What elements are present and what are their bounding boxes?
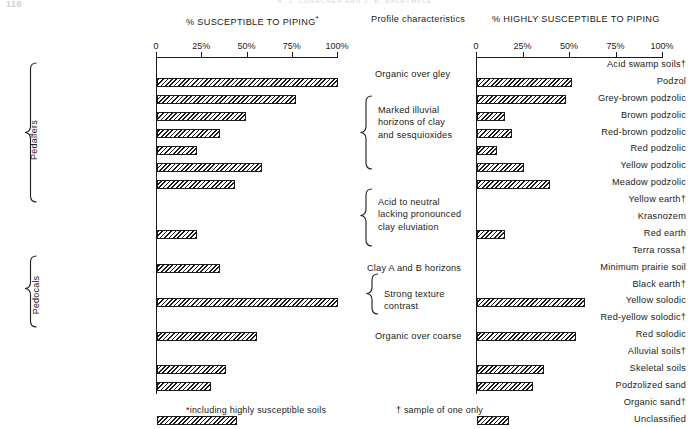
footnote-asterisk: *including highly susceptible soils (186, 405, 326, 415)
brace-acid-to-neutral (361, 189, 373, 246)
footnote-dagger: † sample of one only (396, 405, 483, 415)
brace-strong-texture (367, 274, 379, 314)
group-label-pedalfers: Pedalfers (29, 120, 39, 160)
brace-overlay (0, 0, 691, 429)
figure-canvas: 116 A. J. CONACHER AND J. B. DALRYMPLE %… (0, 0, 691, 429)
group-label-pedocals: Pedocals (31, 276, 41, 315)
brace-marked-illuvial (361, 96, 373, 169)
